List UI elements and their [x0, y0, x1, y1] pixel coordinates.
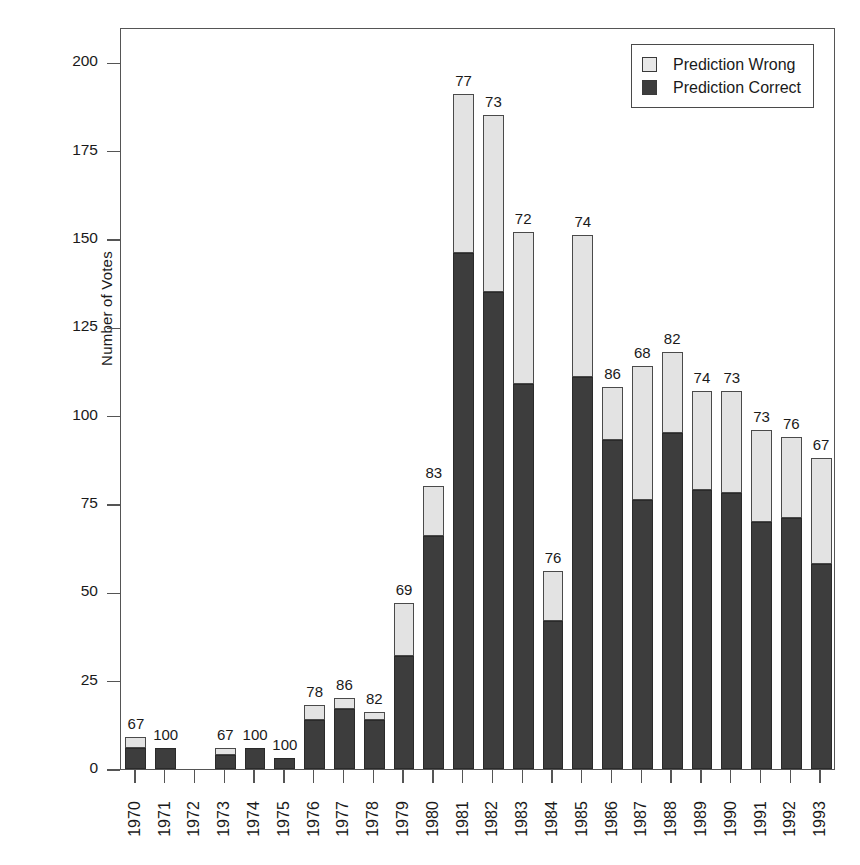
bar-1974[interactable] — [245, 748, 266, 769]
x-tick-mark — [522, 770, 523, 783]
bar-segment-prediction-wrong — [125, 737, 146, 748]
x-tick-mark — [670, 770, 671, 783]
y-tick-label: 25 — [81, 671, 98, 689]
y-tick-label: 200 — [72, 52, 98, 70]
bar-segment-prediction-correct — [423, 536, 444, 769]
bar-segment-prediction-wrong — [543, 571, 564, 620]
legend-label-prediction-wrong: Prediction Wrong — [673, 56, 795, 74]
bar-1970[interactable] — [125, 737, 146, 769]
x-tick-mark — [194, 770, 195, 783]
bar-segment-prediction-correct — [692, 490, 713, 769]
bar-value-label-1980: 83 — [425, 464, 442, 481]
bar-segment-prediction-correct — [334, 709, 355, 769]
x-tick-label: 1982 — [483, 801, 501, 837]
bar-segment-prediction-correct — [572, 377, 593, 769]
bar-1982[interactable] — [483, 115, 504, 769]
legend-item-prediction-correct[interactable]: Prediction Correct — [642, 76, 801, 99]
bar-1985[interactable] — [572, 235, 593, 769]
bar-1981[interactable] — [453, 94, 474, 769]
x-tick-mark — [790, 770, 791, 783]
legend-label-prediction-correct: Prediction Correct — [673, 79, 801, 97]
y-tick-mark — [107, 769, 120, 770]
y-tick-mark — [107, 63, 120, 64]
x-tick-mark — [700, 770, 701, 783]
bar-value-label-1981: 77 — [455, 72, 472, 89]
bar-1992[interactable] — [781, 437, 802, 769]
bar-value-label-1993: 67 — [813, 436, 830, 453]
bar-1973[interactable] — [215, 748, 236, 769]
bar-segment-prediction-wrong — [572, 235, 593, 376]
y-tick-label: 100 — [72, 406, 98, 424]
bar-1975[interactable] — [274, 758, 295, 769]
bar-value-label-1976: 78 — [306, 683, 323, 700]
bar-1991[interactable] — [751, 430, 772, 769]
x-tick-label: 1985 — [573, 801, 591, 837]
x-tick-mark — [760, 770, 761, 783]
bar-1993[interactable] — [811, 458, 832, 769]
bar-segment-prediction-wrong — [334, 698, 355, 709]
x-tick-label: 1978 — [364, 801, 382, 837]
bar-1984[interactable] — [543, 571, 564, 769]
bar-segment-prediction-wrong — [364, 712, 385, 719]
bar-1976[interactable] — [304, 705, 325, 769]
x-tick-mark — [492, 770, 493, 783]
bar-1977[interactable] — [334, 698, 355, 769]
chart-legend: Prediction Wrong Prediction Correct — [631, 44, 814, 108]
bar-segment-prediction-correct — [662, 433, 683, 769]
bar-value-label-1985: 74 — [574, 213, 591, 230]
y-tick-label: 50 — [81, 582, 98, 600]
bar-segment-prediction-wrong — [811, 458, 832, 564]
bar-1979[interactable] — [394, 603, 415, 769]
x-tick-label: 1988 — [662, 801, 680, 837]
x-tick-mark — [373, 770, 374, 783]
x-tick-mark — [283, 770, 284, 783]
bar-segment-prediction-wrong — [781, 437, 802, 518]
bar-segment-prediction-correct — [513, 384, 534, 769]
y-tick-mark — [107, 151, 120, 152]
bar-value-label-1982: 73 — [485, 93, 502, 110]
bar-value-label-1973: 67 — [217, 726, 234, 743]
bar-segment-prediction-correct — [811, 564, 832, 769]
x-tick-label: 1972 — [185, 801, 203, 837]
bar-1978[interactable] — [364, 712, 385, 769]
x-tick-mark — [224, 770, 225, 783]
bar-1987[interactable] — [632, 366, 653, 769]
x-tick-label: 1977 — [334, 801, 352, 837]
bar-segment-prediction-correct — [274, 758, 295, 769]
bar-1980[interactable] — [423, 486, 444, 769]
y-tick-label: 125 — [72, 317, 98, 335]
bar-value-label-1986: 86 — [604, 365, 621, 382]
bar-1990[interactable] — [721, 391, 742, 769]
bars-container: 6710067100100788682698377737276748668827… — [121, 27, 836, 769]
bar-segment-prediction-correct — [721, 493, 742, 769]
y-tick-mark — [107, 416, 120, 417]
bar-1986[interactable] — [602, 387, 623, 769]
bar-1989[interactable] — [692, 391, 713, 769]
bar-segment-prediction-correct — [215, 755, 236, 769]
x-tick-label: 1993 — [811, 801, 829, 837]
x-tick-label: 1970 — [126, 801, 144, 837]
x-tick-mark — [462, 770, 463, 783]
light-square-icon — [642, 57, 657, 72]
x-axis: 1970197119721973197419751976197719781979… — [120, 770, 835, 865]
y-tick-mark — [107, 593, 120, 594]
y-tick-label: 0 — [89, 759, 98, 777]
x-tick-mark — [432, 770, 433, 783]
bar-1971[interactable] — [155, 748, 176, 769]
bar-segment-prediction-wrong — [304, 705, 325, 719]
legend-item-prediction-wrong[interactable]: Prediction Wrong — [642, 53, 801, 76]
plot-area: 6710067100100788682698377737276748668827… — [120, 28, 835, 770]
bar-segment-prediction-correct — [543, 621, 564, 769]
bar-value-label-1984: 76 — [545, 549, 562, 566]
x-tick-mark — [551, 770, 552, 783]
bar-1983[interactable] — [513, 232, 534, 769]
x-tick-label: 1990 — [722, 801, 740, 837]
bar-value-label-1989: 74 — [694, 369, 711, 386]
bar-segment-prediction-wrong — [215, 748, 236, 755]
x-tick-label: 1980 — [424, 801, 442, 837]
bar-segment-prediction-wrong — [453, 94, 474, 253]
x-tick-label: 1991 — [752, 801, 770, 837]
bar-1988[interactable] — [662, 352, 683, 769]
y-tick-mark — [107, 681, 120, 682]
bar-value-label-1990: 73 — [723, 369, 740, 386]
